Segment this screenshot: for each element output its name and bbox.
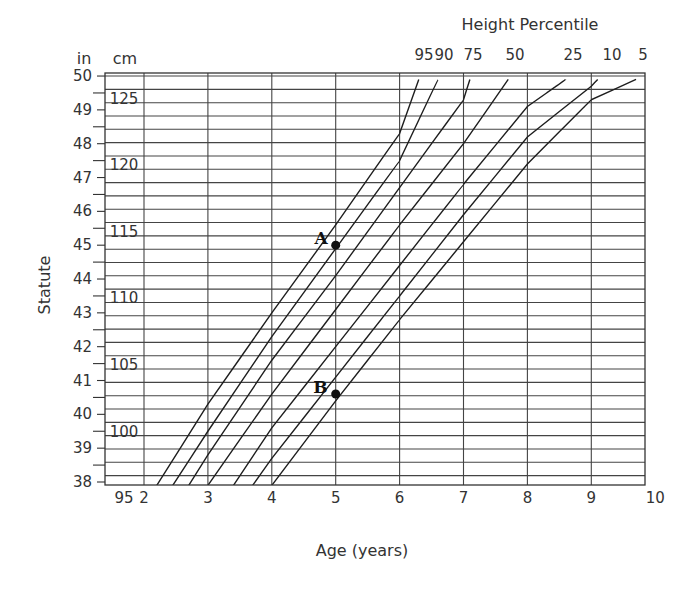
percentile-curve-10: [253, 79, 598, 485]
percentile-label: 95: [414, 46, 433, 64]
y-cm-label: 110: [110, 289, 139, 307]
y-cm-label: 115: [110, 223, 139, 241]
point-a-label: A: [313, 228, 328, 248]
y-cm-label: 105: [110, 356, 139, 374]
percentile-label: 75: [463, 46, 482, 64]
y-unit-in: in: [77, 49, 92, 68]
y-inch-label: 42: [73, 338, 92, 356]
x-tick-label: 2: [139, 489, 149, 507]
grid: [105, 73, 645, 485]
y-inch-label: 49: [73, 101, 92, 119]
point-a-marker: [331, 241, 340, 250]
x-tick-label: 6: [395, 489, 405, 507]
percentile-curve-95: [157, 79, 419, 485]
y-inch-label: 39: [73, 439, 92, 457]
y-inch-label: 44: [73, 270, 92, 288]
y-inch-label: 48: [73, 135, 92, 153]
y-cm-label: 95: [114, 489, 133, 507]
x-tick-label: 3: [203, 489, 213, 507]
plot-frame: [105, 73, 645, 485]
y-inch-label: 43: [73, 304, 92, 322]
y-cm-label: 100: [110, 423, 139, 441]
percentile-label: 90: [434, 46, 453, 64]
y-cm-label: 125: [110, 90, 139, 108]
x-tick-label: 8: [523, 489, 533, 507]
x-tick-label: 5: [331, 489, 341, 507]
x-tick-label: 9: [587, 489, 597, 507]
percentile-curves: [157, 79, 636, 485]
percentile-curve-5: [272, 79, 636, 485]
y-inch-label: 38: [73, 473, 92, 491]
y-inch-label: 50: [73, 67, 92, 85]
percentile-curve-90: [173, 79, 438, 485]
point-b-marker: [331, 390, 340, 399]
growth-chart: 2345678910383940414243444546474849509510…: [0, 0, 691, 590]
percentile-label: 50: [505, 46, 524, 64]
y-unit-cm: cm: [113, 49, 137, 68]
point-b-label: B: [313, 377, 327, 397]
percentile-label: 5: [638, 46, 648, 64]
y-inch-label: 46: [73, 202, 92, 220]
chart-title: Height Percentile: [462, 15, 599, 34]
x-tick-label: 10: [646, 489, 665, 507]
y-cm-label: 120: [110, 156, 139, 174]
x-tick-label: 4: [267, 489, 277, 507]
percentile-label: 10: [602, 46, 621, 64]
x-tick-label: 7: [459, 489, 469, 507]
y-inch-label: 41: [73, 372, 92, 390]
y-inch-label: 45: [73, 236, 92, 254]
percentile-curve-75: [189, 79, 470, 485]
y-inch-label: 47: [73, 169, 92, 187]
y-axis-label: Statute: [35, 256, 54, 315]
y-inch-label: 40: [73, 405, 92, 423]
x-axis-label: Age (years): [316, 541, 409, 560]
percentile-label: 25: [563, 46, 582, 64]
